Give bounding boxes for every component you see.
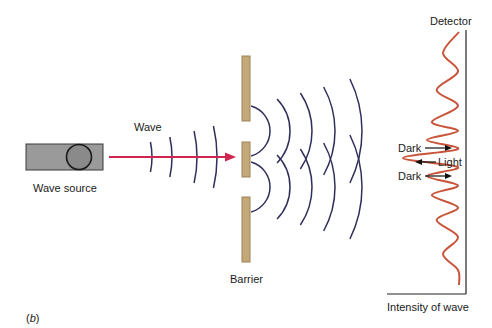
diffracted-wavefront-upper-slit xyxy=(324,87,335,175)
barrier-segment-middle xyxy=(242,142,250,177)
wave-source-emitter xyxy=(67,145,92,170)
light-arrow xyxy=(415,159,436,165)
wave-source-label: Wave source xyxy=(33,182,97,194)
wave-source xyxy=(26,144,103,170)
dark-label-top: Dark xyxy=(398,142,422,154)
double-slit-diagram: Wave source Wave Barrier Detector Intens… xyxy=(0,0,492,328)
diffracted-wavefront-upper-slit xyxy=(251,106,270,156)
diffracted-wavefront-lower-slit xyxy=(300,149,312,225)
diffracted-wavefront-lower-slit xyxy=(277,155,290,219)
wave-label: Wave xyxy=(134,121,162,133)
diffracted-wavefront-upper-slit xyxy=(300,93,312,169)
panel-label: (b) xyxy=(26,312,39,324)
barrier xyxy=(242,56,250,262)
barrier-segment-top xyxy=(242,56,250,121)
light-label: Light xyxy=(438,156,462,168)
barrier-segment-bottom xyxy=(242,197,250,262)
beam-arrow-head xyxy=(225,153,236,162)
barrier-label: Barrier xyxy=(230,273,263,285)
diffracted-wavefront-lower-slit xyxy=(324,143,335,231)
diffracted-wavefront-lower-slit xyxy=(251,162,270,212)
dark-label-bottom: Dark xyxy=(398,170,422,182)
intensity-axis-label: Intensity of wave xyxy=(387,301,469,313)
diffracted-wavefront-upper-slit xyxy=(277,99,290,163)
detector-label: Detector xyxy=(430,15,472,27)
diffracted-wavefronts xyxy=(251,79,362,239)
